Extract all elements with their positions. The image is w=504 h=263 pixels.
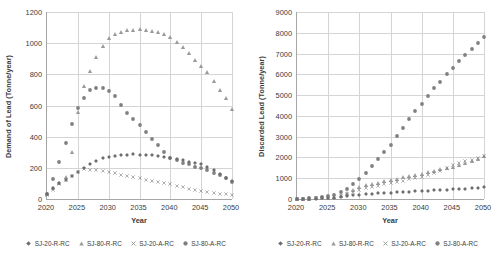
data-point-sj-80-r-rc xyxy=(69,150,74,155)
data-point-sj-20-r-rc xyxy=(162,155,166,159)
data-point-sj-20-r-rc xyxy=(451,187,455,191)
data-point-sj-80-r-rc xyxy=(174,39,179,44)
y-tick-label: 6000 xyxy=(276,70,292,79)
data-point-sj-20-r-rc xyxy=(457,187,461,191)
data-point-sj-80-a-rc xyxy=(413,109,417,113)
legend-item-sj-20-r-rc[interactable]: SJ-20-R-RC xyxy=(278,240,321,247)
data-point-sj-20-r-rc xyxy=(413,189,417,193)
data-point-sj-20-r-rc xyxy=(295,197,299,201)
data-point-sj-20-r-rc xyxy=(482,185,486,189)
data-point-sj-20-a-rc xyxy=(137,176,141,180)
data-point-sj-20-a-rc xyxy=(407,177,411,181)
data-point-sj-20-r-rc xyxy=(382,191,386,195)
gridline-vertical xyxy=(328,12,329,199)
data-point-sj-80-r-rc xyxy=(113,32,118,37)
data-point-sj-20-r-rc xyxy=(230,179,234,183)
y-tick-label: 1000 xyxy=(276,174,292,183)
data-point-sj-80-a-rc xyxy=(100,85,104,89)
x-tick-label: 2025 xyxy=(319,203,335,212)
data-point-sj-20-a-rc xyxy=(401,179,405,183)
data-point-sj-20-r-rc xyxy=(445,188,449,192)
data-point-sj-20-a-rc xyxy=(107,170,111,174)
data-point-sj-20-a-rc xyxy=(199,189,203,193)
data-point-sj-80-a-rc xyxy=(382,150,386,154)
y-tick-label: 5000 xyxy=(276,91,292,100)
data-point-sj-80-a-rc xyxy=(444,72,448,76)
legend-item-sj-20-a-rc[interactable]: SJ-20-A-RC xyxy=(131,240,174,247)
y-tick-label: 1200 xyxy=(26,8,42,17)
data-point-sj-20-r-rc xyxy=(57,181,61,185)
data-point-sj-80-a-rc xyxy=(82,96,86,100)
data-point-sj-20-r-rc xyxy=(45,192,49,196)
gridline-vertical xyxy=(391,12,392,199)
data-point-sj-20-r-rc xyxy=(314,196,318,200)
data-point-sj-80-a-rc xyxy=(150,136,154,140)
legend-left: SJ-20-R-RCSJ-80-R-RCSJ-20-A-RCSJ-80-A-RC xyxy=(0,240,252,247)
legend-item-sj-20-a-rc[interactable]: SJ-20-A-RC xyxy=(383,240,426,247)
triangle-marker-icon xyxy=(79,241,85,247)
y-tick-label: 800 xyxy=(30,70,42,79)
data-point-sj-80-a-rc xyxy=(193,164,197,168)
data-point-sj-80-a-rc xyxy=(432,86,436,90)
legend-item-sj-20-r-rc[interactable]: SJ-20-R-RC xyxy=(26,240,69,247)
data-point-sj-20-r-rc xyxy=(376,191,380,195)
legend-item-sj-80-a-rc[interactable]: SJ-80-A-RC xyxy=(183,240,226,247)
data-point-sj-20-r-rc xyxy=(125,152,129,156)
data-point-sj-20-r-rc xyxy=(187,160,191,164)
y-tick-label: 600 xyxy=(30,101,42,110)
y-tick-label: 1000 xyxy=(26,39,42,48)
cross-marker-icon xyxy=(131,241,137,247)
data-point-sj-80-r-rc xyxy=(131,27,136,32)
data-point-sj-20-a-rc xyxy=(193,188,197,192)
data-point-sj-20-r-rc xyxy=(174,157,178,161)
data-point-sj-80-a-rc xyxy=(482,35,486,39)
data-point-sj-80-r-rc xyxy=(137,27,142,32)
cross-marker-icon xyxy=(383,241,389,247)
legend-item-sj-80-r-rc[interactable]: SJ-80-R-RC xyxy=(79,240,122,247)
data-point-sj-80-a-rc xyxy=(351,181,355,185)
data-point-sj-20-r-rc xyxy=(199,162,203,166)
legend-item-sj-80-r-rc[interactable]: SJ-80-R-RC xyxy=(331,240,374,247)
data-point-sj-20-r-rc xyxy=(395,190,399,194)
circle-marker-icon xyxy=(435,241,441,247)
data-point-sj-80-r-rc xyxy=(106,36,111,41)
data-point-sj-20-a-rc xyxy=(144,177,148,181)
data-point-sj-20-r-rc xyxy=(438,188,442,192)
plot-area-left xyxy=(46,12,232,200)
data-point-sj-80-r-rc xyxy=(168,35,173,40)
data-point-sj-80-a-rc xyxy=(407,117,411,121)
data-point-sj-80-r-rc xyxy=(217,88,222,93)
data-point-sj-80-a-rc xyxy=(376,157,380,161)
data-point-sj-20-a-rc xyxy=(205,190,209,194)
y-tick-label: 9000 xyxy=(276,8,292,17)
x-axis-label-left: Year xyxy=(46,216,232,225)
data-point-sj-80-a-rc xyxy=(469,47,473,51)
data-point-sj-20-r-rc xyxy=(150,153,154,157)
data-point-sj-20-a-rc xyxy=(395,180,399,184)
data-point-sj-80-a-rc xyxy=(438,79,442,83)
data-point-sj-20-a-rc xyxy=(218,191,222,195)
data-point-sj-80-r-rc xyxy=(143,27,148,32)
data-point-sj-20-a-rc xyxy=(181,185,185,189)
data-point-sj-20-r-rc xyxy=(144,153,148,157)
x-tick-label: 2050 xyxy=(223,203,239,212)
x-tick-label: 2050 xyxy=(475,203,491,212)
x-tick-label: 2035 xyxy=(130,203,146,212)
gridline-vertical xyxy=(232,12,233,199)
data-point-sj-20-r-rc xyxy=(76,170,80,174)
data-point-sj-20-r-rc xyxy=(469,186,473,190)
data-point-sj-80-a-rc xyxy=(345,186,349,190)
data-point-sj-20-a-rc xyxy=(482,153,486,157)
data-point-sj-20-a-rc xyxy=(457,161,461,165)
data-point-sj-20-r-rc xyxy=(351,193,355,197)
data-point-sj-80-a-rc xyxy=(419,102,423,106)
legend-label: SJ-80-A-RC xyxy=(443,240,477,247)
diamond-marker-icon xyxy=(278,241,284,247)
data-point-sj-20-r-rc xyxy=(100,156,104,160)
legend-right: SJ-20-R-RCSJ-80-R-RCSJ-20-A-RCSJ-80-A-RC xyxy=(252,240,504,247)
y-tick-label: 400 xyxy=(30,132,42,141)
chart-panel-left: Demand of Lead (Tonne/year) 020040060080… xyxy=(0,0,252,263)
data-point-sj-20-r-rc xyxy=(218,172,222,176)
legend-item-sj-80-a-rc[interactable]: SJ-80-A-RC xyxy=(435,240,478,247)
data-point-sj-20-r-rc xyxy=(420,189,424,193)
